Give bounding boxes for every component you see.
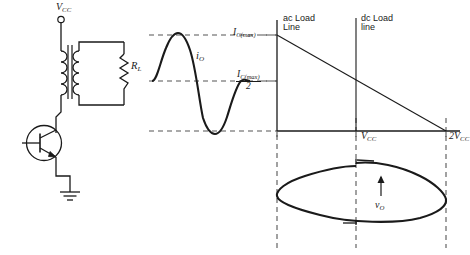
vo-voltage-waveform bbox=[277, 163, 446, 222]
ic-max-half-label: IC(max) 2 bbox=[236, 70, 261, 92]
transistor-emitter-arrow bbox=[49, 152, 57, 158]
transistor-collector-lead bbox=[40, 130, 56, 138]
ac-load-line bbox=[277, 35, 446, 131]
supply-voltage-label: VCC bbox=[56, 2, 71, 13]
plot-axes bbox=[277, 20, 460, 131]
vcc-axis-label: VCC bbox=[361, 131, 376, 142]
dc-load-line-label: dc Loadline bbox=[361, 14, 393, 33]
vo-waveform-label: vO bbox=[375, 200, 384, 211]
primary-to-collector-wire bbox=[56, 95, 61, 133]
dashed-label-continuations bbox=[262, 35, 277, 81]
secondary-bottom-wire bbox=[79, 95, 124, 105]
transformer-core bbox=[68, 45, 72, 99]
secondary-top-wire bbox=[79, 42, 124, 51]
ground-symbol bbox=[60, 192, 80, 200]
emitter-to-ground-wire bbox=[56, 157, 70, 192]
ic-max-label: IC(max) bbox=[233, 28, 256, 39]
two-vcc-axis-label: 2VCC bbox=[449, 131, 469, 142]
load-resistor-symbol bbox=[120, 54, 128, 93]
io-waveform-label: iO bbox=[196, 50, 204, 63]
transformer-primary-coil bbox=[61, 51, 67, 95]
load-resistor-label: RL bbox=[131, 60, 141, 73]
vo-waveform-end-stubs bbox=[343, 159, 374, 225]
supply-terminal-node bbox=[58, 16, 64, 22]
ac-load-line-label: ac LoadLine bbox=[283, 14, 315, 33]
vo-stub-top-lead bbox=[357, 160, 374, 161]
transformer-secondary-coil bbox=[73, 51, 79, 95]
class-a-amplifier-loadline-figure: VCC RL iO IC(max) IC(max) 2 ac LoadLine … bbox=[0, 0, 470, 255]
vo-pointer-arrow bbox=[378, 176, 385, 197]
circuit-schematic bbox=[22, 16, 128, 200]
